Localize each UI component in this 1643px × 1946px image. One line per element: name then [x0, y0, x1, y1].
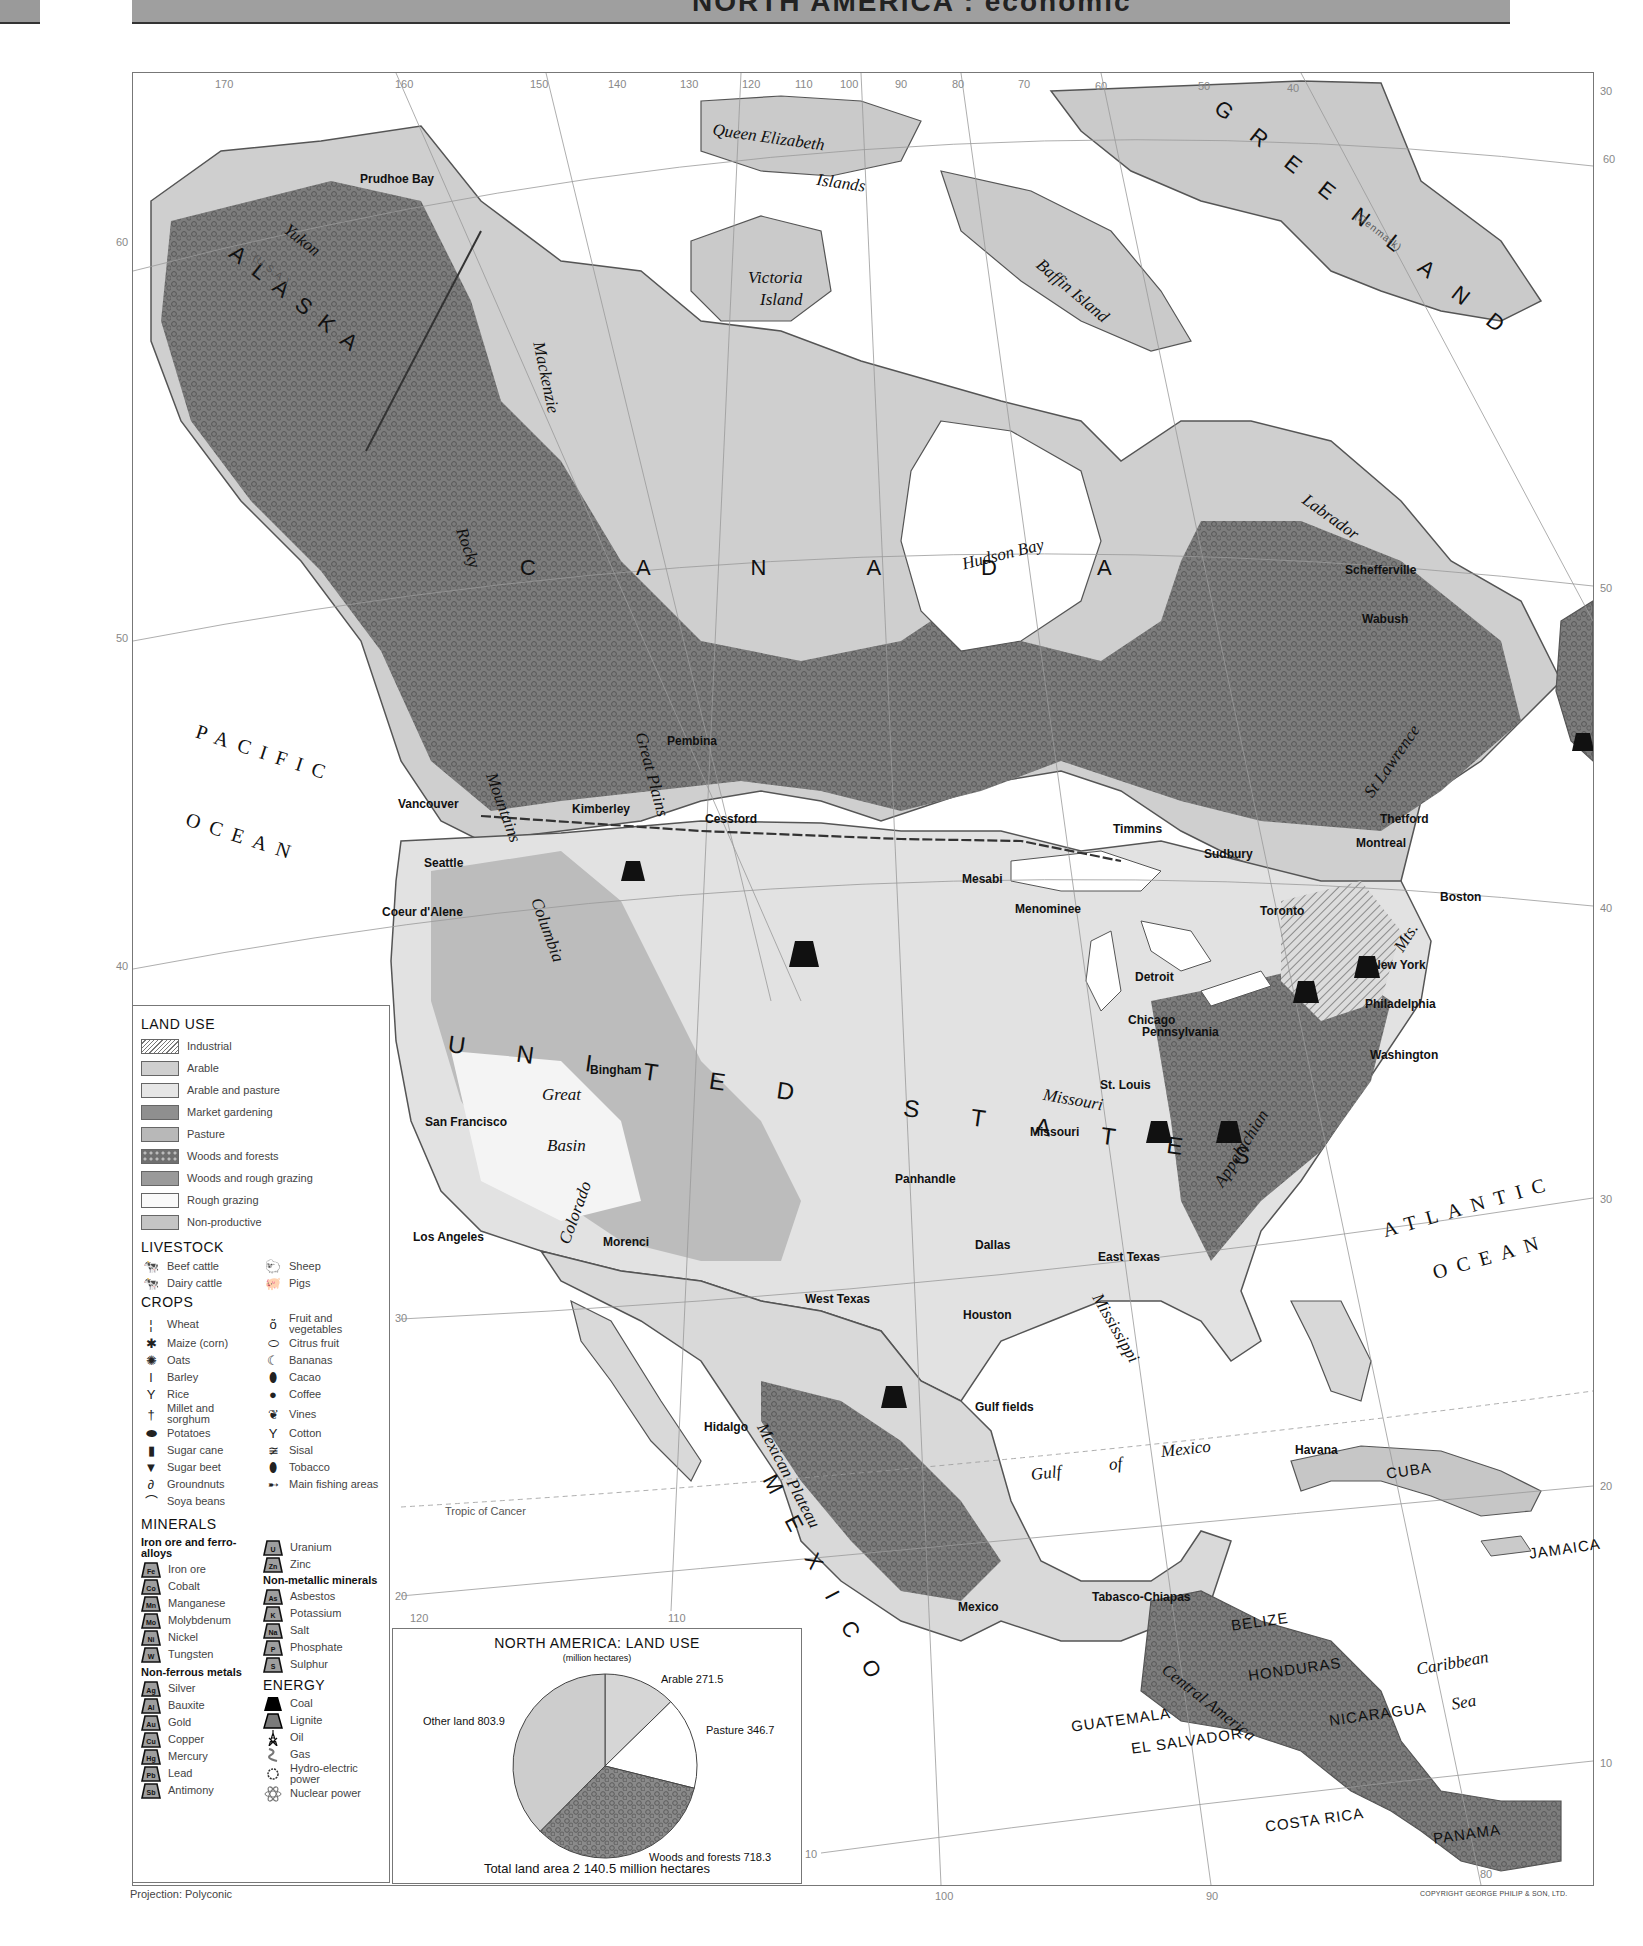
legend-item: ▮Sugar cane — [141, 1442, 259, 1459]
coal-icon — [263, 1696, 283, 1712]
legend-item: ∂Groundnuts — [141, 1476, 259, 1493]
page-number-tab — [0, 0, 40, 24]
place-label: Houston — [963, 1308, 1012, 1322]
svg-text:Au: Au — [146, 1720, 155, 1727]
legend-label: Potatoes — [167, 1428, 210, 1439]
lon-tick: 60 — [1095, 80, 1107, 92]
wheat-icon: ¦ — [141, 1319, 161, 1330]
place-label: Wabush — [1362, 612, 1408, 626]
legend-label: Lead — [168, 1768, 192, 1779]
place-label: Missouri — [1030, 1125, 1079, 1139]
legend-label: Millet and sorghum — [167, 1403, 259, 1425]
legend-label: Mercury — [168, 1751, 208, 1762]
lat-tick: 50 — [116, 632, 128, 644]
legend-label: Bananas — [289, 1355, 332, 1366]
country-label: CANADA — [520, 555, 1212, 581]
mineral-symbol-icon: Sb — [141, 1783, 161, 1799]
lat-tick: 20 — [395, 1590, 407, 1602]
mineral-symbol-icon: Mn — [141, 1596, 161, 1612]
place-label: East Texas — [1098, 1250, 1160, 1264]
svg-text:Al: Al — [148, 1703, 155, 1710]
place-label: Pembina — [667, 734, 717, 748]
lat-tick: 40 — [1600, 902, 1612, 914]
place-label: Philadelphia — [1365, 997, 1436, 1011]
mineral-symbol-icon: Pb — [141, 1766, 161, 1782]
coffee-icon: ● — [263, 1389, 283, 1400]
mineral-symbol-icon: W — [141, 1647, 161, 1663]
mineral-symbol-icon: P — [263, 1640, 283, 1656]
legend-label: Barley — [167, 1372, 198, 1383]
legend-item-energy: Lignite — [263, 1712, 381, 1729]
legend-label: Bauxite — [168, 1700, 205, 1711]
legend-item-mineral: AsAsbestos — [263, 1588, 381, 1605]
legend-label: Soya beans — [167, 1496, 225, 1507]
lat-tick: 10 — [805, 1848, 817, 1860]
legend-item: ǀBarley — [141, 1369, 259, 1386]
legend-swatch — [141, 1193, 179, 1208]
lon-tick: 70 — [1018, 78, 1030, 90]
nonferrous-list: AgSilverAlBauxiteAuGoldCuCopperHgMercury… — [141, 1680, 259, 1799]
svg-text:Mn: Mn — [146, 1601, 156, 1608]
nuclear-icon — [263, 1786, 283, 1802]
lon-tick: 80 — [952, 78, 964, 90]
legend-item-mineral: MnManganese — [141, 1595, 259, 1612]
legend-label: Non-productive — [187, 1216, 262, 1228]
legend-item-mineral: KPotassium — [263, 1605, 381, 1622]
legend-item-energy: Nuclear power — [263, 1785, 381, 1802]
svg-text:As: As — [269, 1594, 278, 1601]
gas-icon — [263, 1747, 283, 1763]
maize-icon: ✱ — [141, 1338, 161, 1349]
pie-label-arable: Arable 271.5 — [661, 1673, 723, 1685]
lon-tick: 80 — [1480, 1868, 1492, 1880]
beef-cattle-icon: 🐄 — [141, 1261, 161, 1272]
mineral-symbol-icon: As — [263, 1589, 283, 1605]
mineral-symbol-icon: Co — [141, 1579, 161, 1595]
sisal-icon: ≆ — [263, 1445, 283, 1456]
legend-label: Beef cattle — [167, 1261, 219, 1272]
legend-item-land-use: Woods and forests — [141, 1145, 381, 1167]
livestock-list: 🐄Beef cattle🐑Sheep🐄Dairy cattle🐖Pigs — [141, 1258, 381, 1292]
oats-icon: ✺ — [141, 1355, 161, 1366]
tobacco-icon: ⬮ — [263, 1462, 283, 1473]
legend-label: Coffee — [289, 1389, 321, 1400]
sugar-beet-icon: ▼ — [141, 1462, 161, 1473]
region-label: Tropic of Cancer — [445, 1505, 526, 1517]
legend-item-mineral: WTungsten — [141, 1646, 259, 1663]
pie-label-other: Other land 803.9 — [423, 1715, 505, 1727]
mineral-symbol-icon: S — [263, 1657, 283, 1673]
legend-label: Gold — [168, 1717, 191, 1728]
legend-label: Salt — [290, 1625, 309, 1636]
place-label: Havana — [1295, 1443, 1338, 1457]
legend-label: Coal — [290, 1698, 313, 1709]
mineral-symbol-icon: Hg — [141, 1749, 161, 1765]
legend-label: Phosphate — [290, 1642, 343, 1653]
legend-label: Zinc — [290, 1559, 311, 1570]
lat-tick: 10 — [1600, 1757, 1612, 1769]
svg-text:K: K — [270, 1611, 275, 1618]
legend-swatch — [141, 1215, 179, 1230]
nonmetallic-heading: Non-metallic minerals — [263, 1575, 381, 1586]
legend-item-mineral: UUranium — [263, 1539, 381, 1556]
energy-heading: ENERGY — [263, 1677, 381, 1693]
mineral-symbol-icon: Al — [141, 1698, 161, 1714]
lon-tick: 160 — [395, 78, 413, 90]
legend-label: Cacao — [289, 1372, 321, 1383]
lon-tick: 120 — [410, 1612, 428, 1624]
legend-item-mineral: SSulphur — [263, 1656, 381, 1673]
lat-tick: 60 — [116, 236, 128, 248]
fish-icon: ➸ — [263, 1479, 283, 1490]
place-label: Toronto — [1260, 904, 1304, 918]
mineral-symbol-icon: Fe — [141, 1562, 161, 1578]
place-label: Sudbury — [1204, 847, 1253, 861]
legend-label: Uranium — [290, 1542, 332, 1553]
svg-text:Ni: Ni — [148, 1635, 155, 1642]
legend-swatch — [141, 1171, 179, 1186]
crops-list: ¦WheatὅFruit and vegetables✱Maize (corn)… — [141, 1313, 381, 1510]
minerals-heading: MINERALS — [141, 1516, 381, 1532]
header-bar: NORTH AMERICA : economic — [132, 0, 1510, 24]
other-metals-list: UUraniumZnZinc — [263, 1539, 381, 1573]
livestock-heading: LIVESTOCK — [141, 1239, 381, 1255]
vines-icon: ❦ — [263, 1409, 283, 1420]
place-label: Bingham — [590, 1063, 641, 1077]
legend-item-mineral: ZnZinc — [263, 1556, 381, 1573]
